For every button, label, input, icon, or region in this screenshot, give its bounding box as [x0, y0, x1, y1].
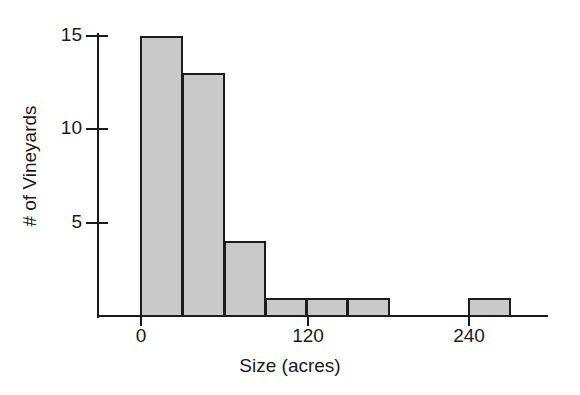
x-tick-label-240: 240: [434, 326, 504, 345]
bar-150-180: [347, 298, 390, 317]
bar-0-30: [140, 36, 183, 317]
plot-area: 15 10 5 0 120 240 Size (acres) # of Vine…: [0, 0, 580, 395]
bar-240-270: [468, 298, 511, 317]
y-axis-title: # of Vineyards: [19, 66, 41, 266]
x-tick-label-120: 120: [273, 326, 343, 345]
x-tick-label-0: 0: [106, 326, 176, 345]
y-tick-label-15: 15: [22, 25, 82, 44]
y-tick-15: [86, 35, 108, 37]
bar-120-150: [306, 298, 348, 317]
bar-60-90: [224, 241, 266, 317]
histogram-figure: 15 10 5 0 120 240 Size (acres) # of Vine…: [0, 0, 580, 395]
y-tick-5: [86, 222, 108, 224]
bar-30-60: [182, 73, 225, 317]
bar-90-120: [265, 298, 307, 317]
x-axis-title: Size (acres): [0, 355, 580, 377]
y-tick-10: [86, 128, 108, 130]
y-axis-line: [97, 33, 99, 318]
